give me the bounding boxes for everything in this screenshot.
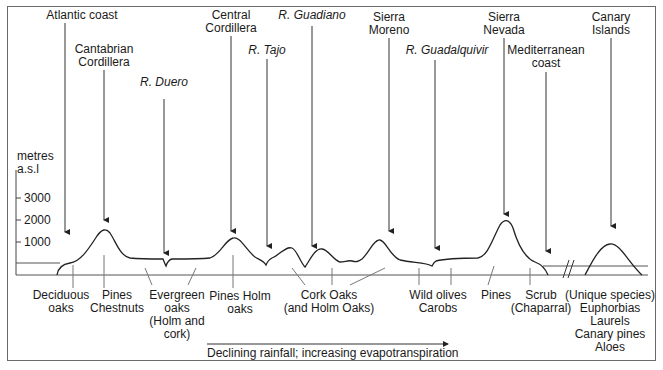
label-atlantic-coast: Atlantic coast bbox=[46, 9, 117, 22]
vegetation-leaders bbox=[73, 255, 530, 288]
rainfall-caption: Declining rainfall; increasing evapotran… bbox=[207, 347, 458, 360]
mainland-profile bbox=[57, 221, 548, 275]
label-cantabrian-cordillera: Cantabrian Cordillera bbox=[75, 43, 134, 69]
label-canary-islands: Canary Islands bbox=[592, 11, 631, 37]
label-r-guadiano: R. Guadiano bbox=[278, 9, 345, 22]
label-central-cordillera: Central Cordillera bbox=[205, 9, 256, 35]
veg-wild-olives-carobs: Wild olives Carobs bbox=[409, 289, 466, 315]
veg-evergreen-oaks: Evergreen oaks (Holm and cork) bbox=[149, 289, 204, 341]
veg-pines-holm-oaks: Pines Holm oaks bbox=[209, 290, 270, 316]
veg-deciduous-oaks: Deciduous oaks bbox=[33, 289, 90, 315]
y-axis-unit-line2: a.s.l bbox=[17, 163, 54, 176]
y-tick-3000: 3000 bbox=[24, 192, 51, 205]
veg-pines-chestnuts: Pines Chestnuts bbox=[90, 289, 144, 315]
label-mediterranean-coast: Mediterranean coast bbox=[507, 44, 584, 70]
label-sierra-nevada: Sierra Nevada bbox=[483, 11, 524, 37]
y-tick-1000: 1000 bbox=[24, 236, 51, 249]
veg-cork-oaks: Cork Oaks (and Holm Oaks) bbox=[284, 289, 375, 315]
y-axis-unit: metres a.s.l bbox=[17, 150, 54, 176]
label-r-tajo: R. Tajo bbox=[248, 44, 286, 57]
y-axis bbox=[16, 170, 21, 275]
veg-scrub-chaparral: Scrub (Chaparral) bbox=[511, 289, 572, 315]
canary-profile bbox=[585, 244, 642, 275]
label-r-guadalquivir: R. Guadalquivir bbox=[406, 44, 489, 57]
y-tick-2000: 2000 bbox=[24, 214, 51, 227]
label-r-duero: R. Duero bbox=[140, 76, 188, 89]
veg-pines: Pines bbox=[481, 289, 511, 302]
veg-unique-species: (Unique species) Euphorbias Laurels Cana… bbox=[565, 289, 655, 354]
label-sierra-moreno: Sierra Moreno bbox=[369, 11, 410, 37]
